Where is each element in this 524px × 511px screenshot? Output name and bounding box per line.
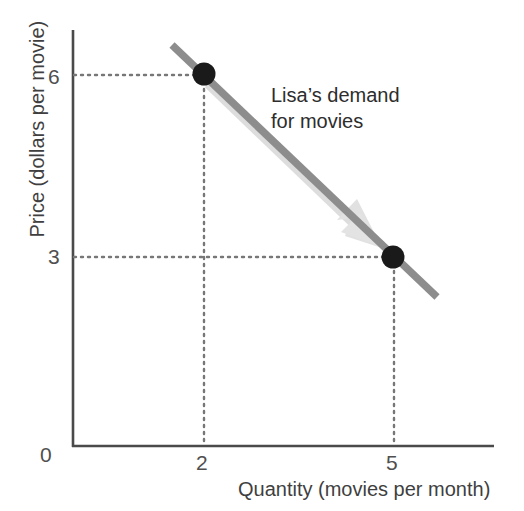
demand-curve-annotation: Lisa’s demand for movies [271,82,400,135]
data-point-a [193,63,216,86]
x-axis-title: Quantity (movies per month) [238,478,490,501]
data-point-b [382,246,405,269]
chart-canvas [0,0,524,511]
x-axis-tick-label-5: 5 [386,452,398,473]
y-axis-tick-label-6: 6 [48,66,60,87]
x-axis-tick-label-2: 2 [196,452,208,473]
y-axis-tick-label-3: 3 [48,246,60,267]
axis-origin-label: 0 [40,444,52,465]
y-axis-title: Price (dollars per movie) [26,38,49,238]
demand-curve-chart: 6 3 0 2 5 Quantity (movies per month) Pr… [0,0,524,511]
